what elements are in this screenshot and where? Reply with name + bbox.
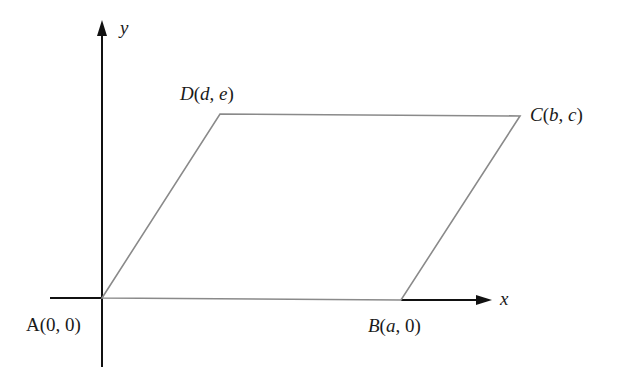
diagram-canvas: y x D(d, e) C(b, c) A(0, 0) B(a, 0) [0,0,618,383]
comma: , [56,314,66,335]
parallelogram-abcd [102,114,520,300]
coord-x: 0 [46,314,56,335]
paren-close: ) [576,104,582,125]
vertex-letter: C [530,104,543,125]
comma: , [559,104,569,125]
comma: , [395,315,405,336]
vertex-letter: A [26,314,40,335]
x-axis-arrowhead-icon [476,295,492,305]
coord-x: b [549,104,559,125]
paren-close: ) [414,315,420,336]
comma: , [210,83,220,104]
vertex-letter: D [180,83,194,104]
coord-y: e [219,83,227,104]
coord-x: a [386,315,396,336]
vertex-label-b: B(a, 0) [368,316,421,335]
y-axis-arrowhead-icon [97,20,107,36]
paren-close: ) [75,314,81,335]
coord-x: d [200,83,210,104]
diagram-figure [0,0,618,383]
vertex-label-d: D(d, e) [180,84,234,103]
vertex-label-c: C(b, c) [530,105,583,124]
paren-close: ) [228,83,234,104]
coord-y: 0 [65,314,75,335]
vertex-letter: B [368,315,380,336]
vertex-label-a: A(0, 0) [26,315,81,334]
x-axis-label: x [500,289,508,308]
coord-y: 0 [405,315,415,336]
y-axis-label: y [120,18,128,37]
